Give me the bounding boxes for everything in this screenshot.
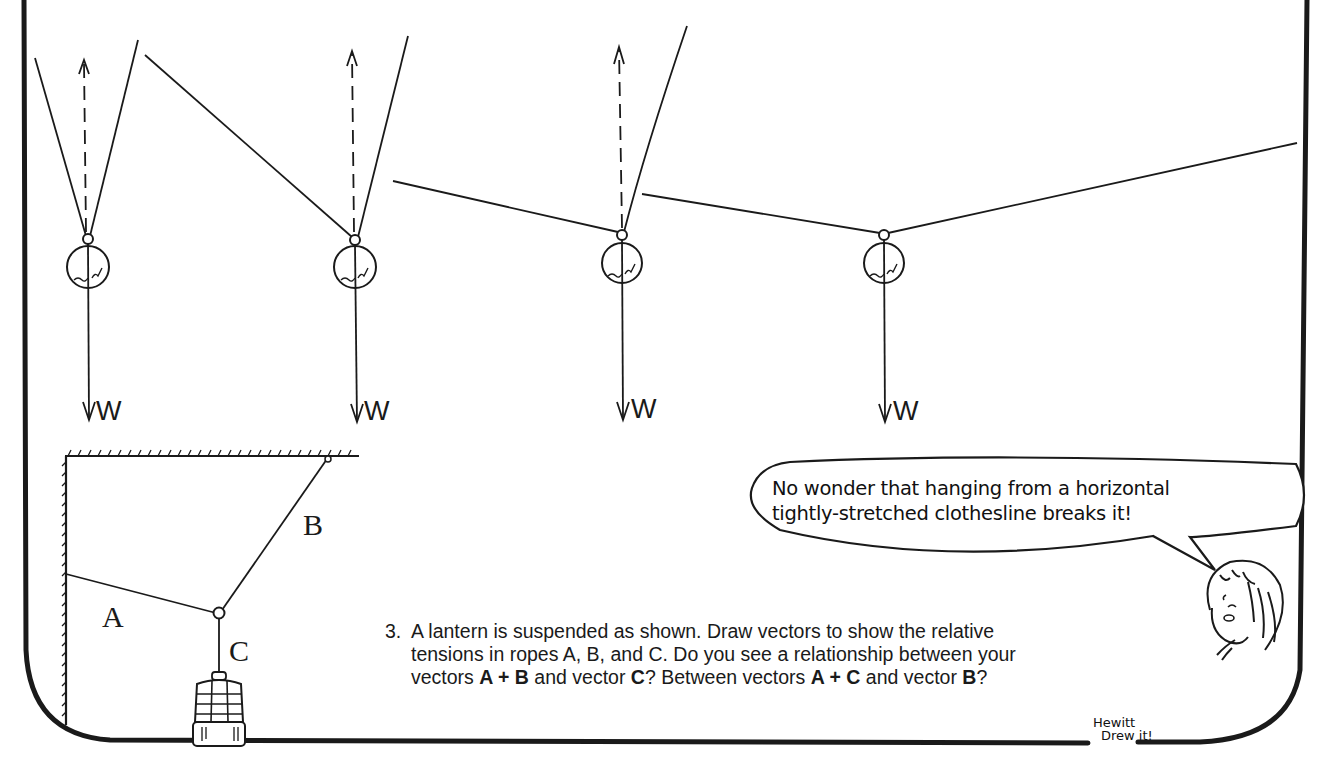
weight-label-3: W [631,396,656,423]
q3-text: ? Between vectors [645,666,811,688]
rope-label-c: C [229,636,249,666]
speech-line-2: tightly-stretched clothesline breaks it! [772,501,1312,526]
q3-text: vectors [411,666,479,688]
vector-b: B [962,666,976,688]
weight-label-4: W [893,398,918,425]
hanging-ball-1 [35,40,138,420]
question-line-2: tensions in ropes A, B, and C. Do you se… [411,643,1271,666]
rope-label-b: B [303,510,323,540]
q3-text: ? [976,666,987,688]
speech-line-1: No wonder that hanging from a horizontal [772,476,1312,501]
weight-label-2: W [364,398,389,425]
vector-a-plus-c: A + C [811,666,861,688]
question-number: 3. [385,620,401,643]
lantern-diagram [62,450,359,746]
weight-label-1: W [96,398,121,425]
q3-text: and vector [529,666,631,688]
question-line-3: vectors A + B and vector C? Between vect… [411,666,1271,689]
vector-a-plus-b: A + B [479,666,529,688]
hanging-ball-4 [642,143,1297,422]
speech-bubble-text: No wonder that hanging from a horizontal… [772,476,1312,526]
rope-label-a: A [102,602,124,632]
hewitt-signature: Hewitt Drew it! [1093,716,1153,742]
q3-text: and vector [860,666,962,688]
hanging-ball-3 [393,26,687,420]
worksheet-page: W W W W A B C No wonder that hanging fro… [0,0,1317,775]
question-line-1: A lantern is suspended as shown. Draw ve… [411,620,1271,643]
question-body: A lantern is suspended as shown. Draw ve… [411,620,1271,689]
signature-line-2: Drew it! [1093,729,1153,742]
vector-c: C [631,666,645,688]
hanging-ball-2 [145,36,408,422]
